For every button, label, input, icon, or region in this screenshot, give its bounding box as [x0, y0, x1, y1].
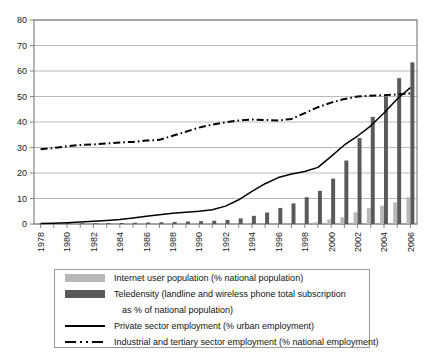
legend-row-teledensity-cont: as % of national population) — [55, 302, 369, 318]
x-tick-label: 1986 — [142, 232, 152, 252]
bar — [380, 206, 384, 224]
bar — [212, 221, 216, 224]
bar — [252, 216, 256, 224]
bar — [265, 213, 269, 224]
y-tick-label: 30 — [17, 143, 27, 153]
bar — [226, 220, 230, 224]
y-tick-label: 0 — [22, 219, 27, 229]
legend-swatch-internet-icon — [63, 270, 107, 286]
y-tick-label: 60 — [17, 66, 27, 76]
x-tick-label: 2006 — [406, 232, 416, 252]
legend-label-teledensity: Teledensity (landline and wireless phone… — [114, 289, 346, 300]
x-tick-label: 1984 — [115, 232, 125, 252]
bar — [410, 62, 414, 224]
x-tick-label: 1996 — [274, 232, 284, 252]
y-tick-label: 70 — [17, 41, 27, 51]
bar — [146, 222, 150, 224]
legend-row-teledensity: Teledensity (landline and wireless phone… — [55, 286, 369, 302]
x-tick-label: 1990 — [194, 232, 204, 252]
bar — [159, 222, 163, 224]
bar — [107, 223, 111, 224]
dashdot-glyph — [65, 338, 105, 346]
bar — [186, 221, 190, 224]
bar — [318, 191, 322, 224]
bar — [80, 223, 84, 224]
bar — [344, 161, 348, 224]
legend-label-internet: Internet user population (% national pop… — [114, 273, 303, 284]
legend-row-internet: Internet user population (% national pop… — [55, 270, 369, 286]
x-tick-label: 1980 — [62, 232, 72, 252]
legend-line-solid-icon — [63, 318, 107, 334]
bar-series — [314, 197, 410, 224]
bar — [120, 223, 124, 224]
x-tick-label: 2004 — [379, 232, 389, 252]
bar — [397, 78, 401, 224]
bar — [331, 179, 335, 224]
y-tick-label: 50 — [17, 92, 27, 102]
legend-label-industrial-tertiary: Industrial and tertiary sector employmen… — [114, 337, 379, 348]
legend-row-private-sector: Private sector employment (% urban emplo… — [55, 318, 369, 334]
bar — [314, 222, 318, 224]
bar — [354, 212, 358, 224]
line-industrial-tertiary — [41, 93, 411, 149]
x-tick-label: 1982 — [89, 232, 99, 252]
y-tick-label: 10 — [17, 194, 27, 204]
x-tick-label: 1988 — [168, 232, 178, 252]
legend-swatch-teledensity-icon — [63, 286, 107, 302]
x-tick-label: 1978 — [36, 232, 46, 252]
bar-series — [41, 62, 415, 224]
y-tick-label: 20 — [17, 168, 27, 178]
bar — [133, 223, 137, 224]
bar — [239, 218, 243, 224]
bar — [199, 221, 203, 224]
bar — [393, 202, 397, 224]
bar — [340, 217, 344, 224]
chart-plot-area: 0102030405060708019781980198219841986198… — [0, 0, 428, 265]
legend-line-dashdot-icon — [63, 334, 107, 350]
bar — [292, 203, 296, 224]
x-tick-label: 1992 — [221, 232, 231, 252]
bar — [327, 219, 331, 224]
bar — [358, 138, 362, 224]
legend-label-teledensity-cont: as % of national population) — [122, 305, 233, 316]
chart-legend: Internet user population (% national pop… — [54, 269, 370, 348]
y-tick-label: 80 — [17, 15, 27, 25]
bar — [93, 223, 97, 224]
bar — [371, 117, 375, 224]
x-tick-label: 1998 — [300, 232, 310, 252]
x-tick-label: 2002 — [353, 232, 363, 252]
bar — [367, 208, 371, 224]
bar — [278, 208, 282, 224]
bar — [173, 222, 177, 224]
x-tick-label: 2000 — [327, 232, 337, 252]
line-private-sector — [41, 88, 411, 224]
bar — [384, 97, 388, 225]
bar — [305, 197, 309, 224]
y-tick-label: 40 — [17, 117, 27, 127]
legend-row-industrial-tertiary: Industrial and tertiary sector employmen… — [55, 334, 369, 350]
x-tick-label: 1994 — [247, 232, 257, 252]
bar — [406, 197, 410, 224]
legend-label-private-sector: Private sector employment (% urban emplo… — [114, 321, 314, 332]
